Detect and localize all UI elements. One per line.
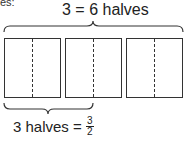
whole-box-3 <box>127 39 183 98</box>
fraction-denominator: 2 <box>87 127 93 137</box>
bottom-brace <box>4 103 93 114</box>
top-brace <box>4 21 183 32</box>
fraction-numerator: 3 <box>87 116 93 126</box>
bottom-brace-label: 3 halves = 3 2 <box>13 116 94 137</box>
fraction-three-halves: 3 2 <box>86 116 94 137</box>
bottom-label-text: 3 halves = <box>13 118 82 135</box>
whole-box-1 <box>5 39 61 98</box>
whole-box-2 <box>66 39 122 98</box>
